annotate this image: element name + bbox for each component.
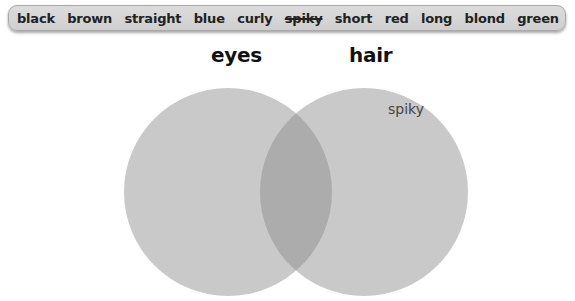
venn-diagram xyxy=(0,0,575,301)
placed-word-spiky[interactable]: spiky xyxy=(388,101,424,117)
